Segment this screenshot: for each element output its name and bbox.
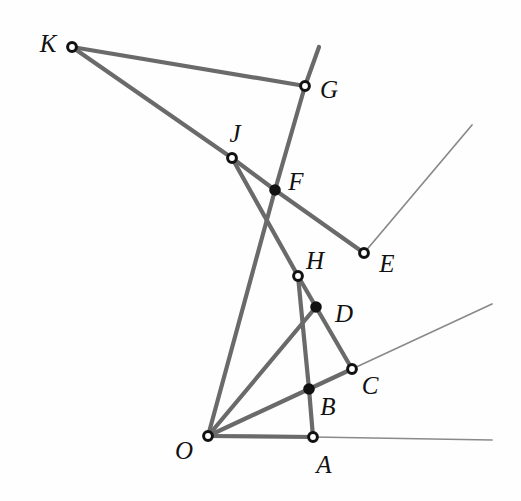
point-marker-G xyxy=(301,82,310,91)
ray-O-E-ext xyxy=(364,125,472,253)
segment-K-G xyxy=(72,47,305,86)
point-label-A: A xyxy=(316,452,331,477)
segment-B-A xyxy=(309,389,313,437)
point-label-G: G xyxy=(320,77,338,102)
geometry-figure: KGJFEHDCBOA xyxy=(0,0,521,501)
ray-G-up xyxy=(305,47,319,86)
segment-J-F xyxy=(232,158,275,190)
lines-layer xyxy=(72,47,492,440)
point-marker-H xyxy=(294,272,303,281)
point-label-F: F xyxy=(288,169,303,194)
point-marker-J xyxy=(228,154,237,163)
ray-O-A-ext xyxy=(313,437,492,440)
point-label-E: E xyxy=(379,251,394,276)
point-label-B: B xyxy=(320,394,335,419)
point-marker-D xyxy=(311,302,321,312)
point-marker-A xyxy=(309,433,318,442)
figure-canvas xyxy=(0,0,521,501)
point-marker-E xyxy=(360,249,369,258)
point-label-O: O xyxy=(175,438,193,463)
point-label-J: J xyxy=(229,121,240,146)
point-label-D: D xyxy=(335,301,353,326)
segment-O-A xyxy=(208,436,313,437)
point-marker-F xyxy=(270,185,280,195)
segment-F-E xyxy=(275,190,364,253)
point-label-H: H xyxy=(306,248,324,273)
point-label-C: C xyxy=(362,373,379,398)
point-marker-O xyxy=(204,432,213,441)
point-label-K: K xyxy=(40,31,57,56)
point-marker-B xyxy=(304,384,314,394)
ray-O-C-ext xyxy=(352,304,492,369)
point-marker-K xyxy=(68,43,77,52)
segment-K-J xyxy=(72,47,232,158)
point-marker-C xyxy=(348,365,357,374)
